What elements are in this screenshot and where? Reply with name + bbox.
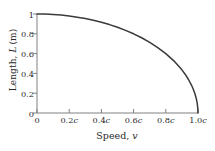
x-tick-label: 0.6c (117, 116, 151, 124)
x-axis-title: Speed, v (37, 130, 197, 141)
x-axis-ticks (37, 109, 198, 113)
data-curve (37, 14, 198, 113)
x-tick-label: 0.2c (52, 116, 86, 124)
x-tick-label: 0 (20, 116, 54, 124)
x-tick-label-group: 0 0.2c 0.4c 0.6c 0.8c 1.0c (0, 116, 215, 130)
x-tick-label: 0.8c (149, 116, 183, 124)
x-tick-label: 1.0c (181, 116, 215, 124)
length-contraction-chart: 0 0.2 0.4 0.6 0.8 1 0 0.2c 0.4c 0.6c 0.8… (0, 0, 215, 151)
y-axis-title: Length, L (m) (8, 5, 18, 115)
x-tick-label: 0.4c (84, 116, 118, 124)
